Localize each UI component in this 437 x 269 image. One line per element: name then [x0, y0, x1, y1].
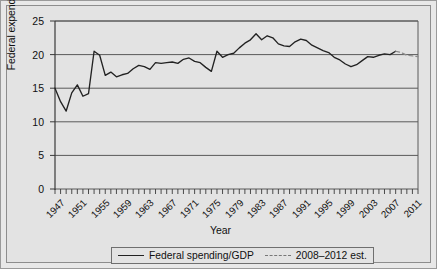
legend-item-estimate: 2008–2012 est.: [265, 250, 367, 261]
plot-svg: [7, 6, 434, 216]
chart-frame: Federal expending/GDP Year 0510152025 19…: [6, 5, 431, 263]
legend-solid-line-icon: [118, 255, 144, 256]
legend-item-federal-spending: Federal spending/GDP: [118, 250, 254, 261]
plot-area: [7, 6, 434, 220]
chart-legend: Federal spending/GDP 2008–2012 est.: [111, 247, 374, 264]
legend-dashed-line-icon: [265, 255, 291, 256]
x-axis-label: Year: [7, 224, 434, 236]
chart-figure: Federal expending/GDP Year 0510152025 19…: [0, 0, 437, 269]
legend-label-0: Federal spending/GDP: [149, 250, 254, 261]
legend-label-1: 2008–2012 est.: [296, 250, 367, 261]
